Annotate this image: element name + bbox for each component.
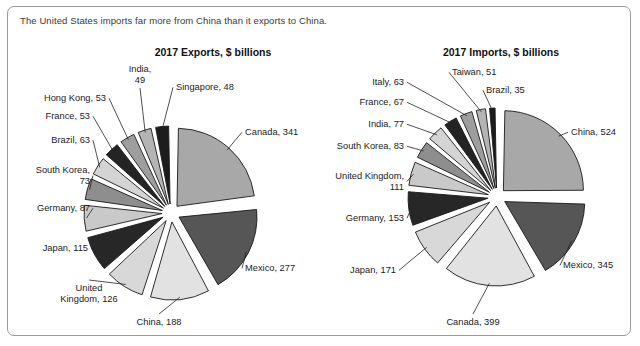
pie-slice-label: China, 188 xyxy=(120,317,198,328)
label-leader-line xyxy=(407,102,452,123)
pie-slice-label: Canada, 341 xyxy=(245,127,315,138)
pie-slice-label: Italy, 63 xyxy=(338,77,404,88)
pie-slice-label: United Kingdom, 111 xyxy=(304,171,404,192)
label-leader-line xyxy=(399,247,427,270)
label-leader-line xyxy=(473,283,489,314)
pie-slice-label: China, 524 xyxy=(571,127,631,138)
label-leader-line xyxy=(449,72,481,112)
pie-slice-label: Germany, 87 xyxy=(10,203,90,214)
figure-panel: The United States imports far more from … xyxy=(7,6,631,336)
pie-slice-label: Mexico, 277 xyxy=(245,263,325,274)
pie-slice-label: South Korea, 73 xyxy=(8,165,90,186)
pie-slice-label: India, 49 xyxy=(118,64,162,85)
label-leader-line xyxy=(407,82,467,116)
label-leader-line xyxy=(407,146,424,151)
pie-slice-label: Singapore, 48 xyxy=(176,82,254,93)
pie-slice xyxy=(503,111,583,191)
pie-slice-label: South Korea, 83 xyxy=(308,141,404,152)
pie-slice-label: India, 77 xyxy=(334,119,404,130)
pie-slice-label: Hong Kong, 53 xyxy=(16,93,106,104)
pie-slice-label: Canada, 399 xyxy=(432,317,514,328)
label-leader-line xyxy=(407,124,437,135)
pie-slice-label: France, 53 xyxy=(26,111,90,122)
pie-slice-label: Brazil, 63 xyxy=(28,135,90,146)
pie-slice-label: Germany, 153 xyxy=(318,213,404,224)
pie-slice-label: United Kingdom, 126 xyxy=(44,283,134,304)
pie-slice-label: Japan, 171 xyxy=(326,265,396,276)
pie-slice-label: Brazil, 35 xyxy=(486,85,552,96)
pie-slice-label: Japan, 115 xyxy=(20,243,88,254)
pie-slice-label: France, 67 xyxy=(320,97,404,108)
pie-slice-label: Taiwan, 51 xyxy=(452,67,518,78)
pie-slice-label: Mexico, 345 xyxy=(563,260,631,271)
